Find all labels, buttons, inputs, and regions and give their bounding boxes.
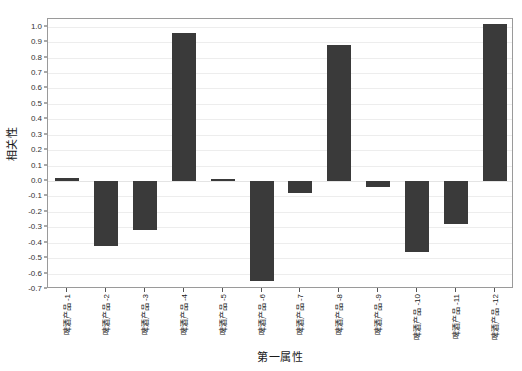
- gridline: [48, 88, 512, 89]
- gridline: [48, 42, 512, 43]
- gridline: [48, 166, 512, 167]
- y-tick-label: 1.0: [31, 21, 42, 30]
- x-tick-label-text: 啤酒产品 -12: [489, 294, 500, 340]
- y-tick-label: 0.1: [31, 160, 42, 169]
- gridline: [48, 119, 512, 120]
- y-tick-label: 0.4: [31, 114, 42, 123]
- y-tick-label: 0.6: [31, 83, 42, 92]
- x-tick-mark: [299, 288, 300, 292]
- x-tick-label-text: 啤酒产品 -3: [139, 294, 150, 335]
- bar[interactable]: [366, 181, 390, 187]
- y-tick-label: -0.4: [28, 237, 42, 246]
- x-tick-mark: [66, 288, 67, 292]
- x-tick-label-text: 啤酒产品 -7: [294, 294, 305, 335]
- y-tick-label: 0.0: [31, 176, 42, 185]
- x-tick-label-text: 啤酒产品 -8: [333, 294, 344, 335]
- x-tick-label-text: 啤酒产品 -6: [256, 294, 267, 335]
- y-axis-title-text: 相关性: [3, 127, 19, 162]
- bar[interactable]: [483, 24, 507, 181]
- bar[interactable]: [172, 33, 196, 181]
- x-tick-label-text: 啤酒产品 -2: [100, 294, 111, 335]
- gridline: [48, 150, 512, 151]
- plot-area: [47, 18, 513, 288]
- y-axis-ticks: 1.00.90.80.70.60.50.40.30.20.10.0-0.1-0.…: [18, 0, 47, 371]
- y-tick-label: -0.5: [28, 253, 42, 262]
- bar[interactable]: [405, 181, 429, 252]
- x-tick-label-text: 啤酒产品 -9: [372, 294, 383, 335]
- gridline: [48, 27, 512, 28]
- gridline: [48, 58, 512, 59]
- y-tick-label: 0.5: [31, 98, 42, 107]
- x-tick-mark: [455, 288, 456, 292]
- x-tick-mark: [261, 288, 262, 292]
- x-tick-mark: [338, 288, 339, 292]
- x-tick-mark: [377, 288, 378, 292]
- x-tick-mark: [144, 288, 145, 292]
- y-tick-label: -0.1: [28, 191, 42, 200]
- x-tick-mark: [222, 288, 223, 292]
- y-tick-label: 0.2: [31, 145, 42, 154]
- bar[interactable]: [250, 181, 274, 281]
- x-axis-title: 第一属性: [47, 348, 513, 364]
- bar[interactable]: [211, 179, 235, 181]
- x-tick-label-text: 啤酒产品 -1: [61, 294, 72, 335]
- gridline: [48, 104, 512, 105]
- gridline: [48, 274, 512, 275]
- bar[interactable]: [94, 181, 118, 246]
- bar-chart-figure: 相关性 1.00.90.80.70.60.50.40.30.20.10.0-0.…: [0, 0, 522, 371]
- bar[interactable]: [288, 181, 312, 193]
- bar[interactable]: [55, 178, 79, 181]
- y-tick-label: -0.2: [28, 206, 42, 215]
- bar[interactable]: [444, 181, 468, 224]
- y-tick-label: 0.3: [31, 129, 42, 138]
- x-tick-label-text: 啤酒产品 -10: [411, 294, 422, 340]
- x-tick-label-text: 啤酒产品 -5: [217, 294, 228, 335]
- y-tick-label: 0.7: [31, 68, 42, 77]
- y-tick-label: 0.9: [31, 37, 42, 46]
- gridline: [48, 258, 512, 259]
- x-tick-mark: [494, 288, 495, 292]
- bar[interactable]: [133, 181, 157, 230]
- gridline: [48, 135, 512, 136]
- gridline: [48, 73, 512, 74]
- x-tick-mark: [105, 288, 106, 292]
- y-tick-label: -0.7: [28, 284, 42, 293]
- y-tick-label: -0.6: [28, 268, 42, 277]
- x-tick-mark: [416, 288, 417, 292]
- x-tick-label-text: 啤酒产品 -11: [450, 294, 461, 339]
- x-tick-mark: [183, 288, 184, 292]
- y-tick-label: -0.3: [28, 222, 42, 231]
- x-tick-label-text: 啤酒产品 -4: [178, 294, 189, 335]
- y-tick-label: 0.8: [31, 52, 42, 61]
- bar[interactable]: [327, 45, 351, 181]
